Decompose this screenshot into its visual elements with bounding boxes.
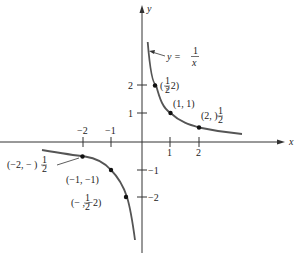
point-2-half <box>197 125 201 129</box>
svg-text:(−2, − ): (−2, − ) <box>7 159 37 171</box>
point-label-neg2-neghalf: (−2, − ) 1 2 <box>7 154 79 174</box>
function-numerator: 1 <box>193 45 198 56</box>
point-label-half-2: ( , 2) 1 2 <box>160 75 179 95</box>
tick-y-neg1: −1 <box>148 165 159 176</box>
point-neghalf-neg2 <box>124 195 128 199</box>
tick-y-neg2: −2 <box>148 192 159 203</box>
point-label-1-1: (1, 1) <box>173 98 195 110</box>
point-half-2 <box>153 83 157 87</box>
point-label-neg1-neg1: (−1, −1) <box>66 174 99 186</box>
label-arrow-icon <box>149 50 155 54</box>
y-axis-arrow-icon <box>140 5 145 13</box>
function-lhs: y = <box>166 51 181 62</box>
svg-text:(2, ): (2, ) <box>201 110 218 122</box>
svg-text:2: 2 <box>165 84 170 95</box>
tick-x-1: 1 <box>167 147 172 158</box>
tick-x-2: 2 <box>196 147 201 158</box>
tick-y-2: 2 <box>128 80 133 91</box>
x-axis-arrow-icon <box>277 140 285 145</box>
x-axis: x <box>0 136 294 147</box>
point-1-1 <box>168 111 172 115</box>
svg-text:2: 2 <box>218 114 223 125</box>
point-label-neghalf-neg2: (− , −2) 1 2 <box>71 192 101 212</box>
point-neg1-neg1 <box>109 168 113 172</box>
tick-y-1: 1 <box>128 108 133 119</box>
svg-text:2: 2 <box>42 163 47 174</box>
hyperbola-chart: x y −2 −1 1 2 2 1 −1 −2 y = <box>0 0 300 253</box>
function-label: y = 1 x <box>149 45 199 68</box>
point-label-2-half: (2, ) 1 2 <box>201 105 223 125</box>
y-axis: y <box>140 3 153 253</box>
tick-x-neg1: −1 <box>105 125 116 136</box>
function-denominator: x <box>191 57 197 68</box>
point-neg2-neghalf <box>80 154 84 158</box>
y-axis-label: y <box>146 3 152 14</box>
svg-text:2: 2 <box>85 201 90 212</box>
tick-x-neg2: −2 <box>77 125 88 136</box>
x-axis-label: x <box>288 136 294 147</box>
